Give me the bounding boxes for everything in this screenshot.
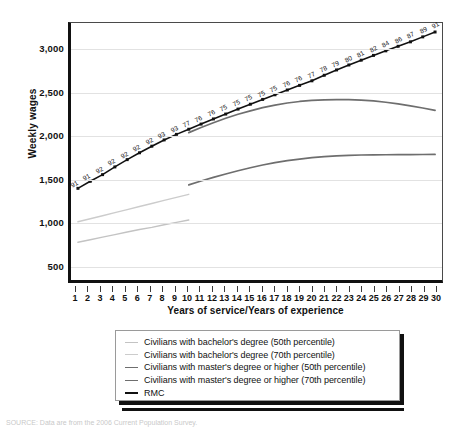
- legend-item-label: Civilians with master's degree or higher…: [144, 362, 365, 372]
- source-caption: SOURCE: Data are from the 2006 Current P…: [0, 419, 461, 428]
- legend-item-label: Civilians with bachelor's degree (70th p…: [144, 350, 335, 360]
- x-axis-tick-label: 29: [419, 293, 429, 303]
- x-axis-tick-label: 23: [344, 293, 354, 303]
- data-point-label: 93: [169, 124, 179, 134]
- x-axis-tick-label: 20: [307, 293, 317, 303]
- data-point-label: 79: [331, 59, 341, 69]
- x-axis-tick-mark: [312, 286, 313, 292]
- data-point-label: 80: [343, 54, 353, 64]
- data-point-label: 76: [206, 109, 216, 119]
- x-axis-tick-label: 10: [182, 293, 192, 303]
- x-axis-tick-label: 21: [319, 293, 329, 303]
- x-axis-tick-mark: [100, 286, 101, 292]
- data-point-label: 76: [281, 79, 291, 89]
- x-axis-tick-label: 11: [195, 293, 205, 303]
- x-axis-tick-label: 17: [269, 293, 279, 303]
- legend-item-label: Civilians with bachelor's degree (50th p…: [144, 337, 335, 347]
- x-axis-tick-label: 7: [147, 293, 152, 303]
- rmc-data-labels: 9191929292929293937776767575757575767677…: [68, 22, 443, 283]
- x-axis-tick-label: 3: [97, 293, 102, 303]
- y-axis-tick-label: 1,500: [4, 173, 64, 184]
- x-axis-tick-mark: [224, 286, 225, 292]
- legend-swatch-line-icon: [125, 354, 138, 355]
- data-point-label: 76: [194, 114, 204, 124]
- legend-bottom-rule: [122, 408, 404, 411]
- data-point-label: 92: [132, 143, 142, 153]
- x-axis-tick-label: 27: [394, 293, 404, 303]
- data-point-label: 75: [219, 104, 229, 114]
- x-axis-tick-mark: [150, 286, 151, 292]
- source-caption-text: SOURCE: Data are from the 2006 Current P…: [0, 419, 461, 426]
- legend-swatch-line-icon: [125, 392, 138, 394]
- x-axis-tick-label: 15: [244, 293, 254, 303]
- x-axis-tick-mark: [112, 286, 113, 292]
- x-axis-tick-label: 4: [110, 293, 115, 303]
- data-point-label: 77: [306, 70, 316, 80]
- x-axis-tick-mark: [249, 286, 250, 292]
- x-axis-title: Years of service/Years of experience: [68, 305, 443, 316]
- x-axis-tick-mark: [237, 286, 238, 292]
- chart-legend: Civilians with bachelor's degree (50th p…: [115, 330, 400, 401]
- data-point-label: 81: [356, 49, 366, 59]
- x-axis-tick-label: 24: [356, 293, 366, 303]
- x-axis-tick-mark: [274, 286, 275, 292]
- x-axis-tick-label: 5: [122, 293, 127, 303]
- x-axis-tick-label: 12: [207, 293, 217, 303]
- y-axis-tick-label: 2,000: [4, 130, 64, 141]
- x-axis-tick-label: 1: [72, 293, 77, 303]
- data-point-label: 91: [82, 172, 92, 182]
- y-axis-tick-label: 500: [4, 260, 64, 271]
- x-axis-tick-mark: [386, 286, 387, 292]
- x-axis-tick-label: 16: [257, 293, 267, 303]
- x-axis-tick-mark: [349, 286, 350, 292]
- legend-swatch-line-icon: [125, 367, 138, 368]
- data-point-label: 91: [431, 20, 441, 30]
- x-axis-tick-mark: [287, 286, 288, 292]
- legend-item[interactable]: RMC: [125, 386, 391, 399]
- y-axis-tick-label: 1,000: [4, 217, 64, 228]
- x-axis-tick-label: 14: [232, 293, 242, 303]
- data-point-label: 92: [119, 150, 129, 160]
- x-axis-tick-mark: [324, 286, 325, 292]
- x-axis-tick-label: 18: [282, 293, 292, 303]
- x-axis-tick-mark: [411, 286, 412, 292]
- data-point-label: 75: [244, 94, 254, 104]
- x-axis-tick-label: 13: [219, 293, 229, 303]
- data-point-label: 75: [231, 99, 241, 109]
- x-axis-tick-label: 30: [431, 293, 441, 303]
- x-axis-tick-mark: [361, 286, 362, 292]
- data-point-label: 86: [393, 35, 403, 45]
- legend-swatch-line-icon: [125, 380, 138, 381]
- data-point-label: 89: [418, 25, 428, 35]
- x-axis-tick-mark: [125, 286, 126, 292]
- legend-item[interactable]: Civilians with bachelor's degree (70th p…: [125, 349, 391, 362]
- data-point-label: 77: [182, 119, 192, 129]
- data-point-label: 93: [157, 130, 167, 140]
- x-axis-tick-label: 22: [331, 293, 341, 303]
- data-point-label: 84: [381, 39, 391, 49]
- y-axis-tick-labels: 3,0002,5002,0001,5001,000500: [2, 22, 64, 283]
- legend-item[interactable]: Civilians with bachelor's degree (50th p…: [125, 336, 391, 349]
- x-axis-tick-label: 26: [381, 293, 391, 303]
- y-axis-tick-label: 3,000: [4, 43, 64, 54]
- x-axis-tick-mark: [436, 286, 437, 292]
- x-axis-tick-mark: [75, 286, 76, 292]
- x-axis-tick-mark: [137, 286, 138, 292]
- x-axis-tick-label: 2: [85, 293, 90, 303]
- x-axis-tick-mark: [87, 286, 88, 292]
- legend-swatch-line-icon: [125, 342, 138, 343]
- legend-item[interactable]: Civilians with master's degree or higher…: [125, 361, 391, 374]
- y-axis-tick-label: 2,500: [4, 86, 64, 97]
- data-point-label: 75: [269, 84, 279, 94]
- data-point-label: 87: [406, 30, 416, 40]
- x-axis-tick-mark: [199, 286, 200, 292]
- legend-item-label: RMC: [144, 388, 164, 398]
- x-axis-tick-mark: [299, 286, 300, 292]
- data-point-label: 75: [256, 89, 266, 99]
- data-point-label: 92: [107, 157, 117, 167]
- legend-item[interactable]: Civilians with master's degree or higher…: [125, 374, 391, 387]
- x-axis-tick-mark: [262, 286, 263, 292]
- x-axis-tick-mark: [162, 286, 163, 292]
- x-axis-tick-mark: [212, 286, 213, 292]
- x-axis-tick-label: 8: [160, 293, 165, 303]
